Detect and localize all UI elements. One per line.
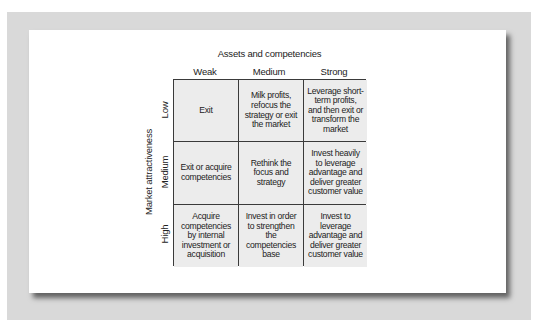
matrix-grid: Exit Milk profits, refocus the strategy … (173, 79, 366, 266)
y-axis-title: Market attractiveness (143, 129, 154, 215)
cell-low-weak: Exit (174, 80, 238, 141)
cell-low-strong: Leverage short-term profits, and then ex… (304, 80, 367, 141)
cell-low-medium: Milk profits, refocus the strategy or ex… (239, 80, 303, 141)
row-header-medium: Medium (159, 156, 170, 189)
cell-high-strong: Invest to leverage advantage and deliver… (304, 205, 367, 267)
column-header-medium: Medium (237, 66, 301, 77)
cell-medium-weak: Exit or acquire competencies (174, 142, 238, 204)
cell-high-weak: Acquire competencies by internal investm… (174, 205, 238, 267)
column-header-weak: Weak (173, 66, 237, 77)
column-header-strong: Strong (302, 66, 366, 77)
cell-medium-medium: Rethink the focus and strategy (239, 142, 303, 204)
row-header-high: High (159, 225, 170, 244)
cell-high-medium: Invest in order to strengthen the compet… (239, 205, 303, 267)
x-axis-title: Assets and competencies (173, 48, 366, 59)
cell-medium-strong: Invest heavily to leverage advantage and… (304, 142, 367, 204)
row-header-low: Low (159, 102, 170, 119)
